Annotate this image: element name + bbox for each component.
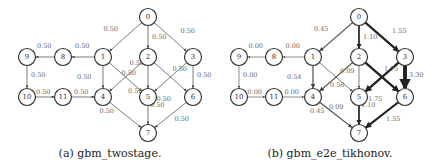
edge-label-0-3: 0.50: [181, 27, 195, 35]
node-label-2: 2: [146, 53, 150, 61]
node-0: 0: [351, 9, 368, 26]
edge-label-2-4: 0.50: [122, 69, 136, 77]
node-label-1: 1: [101, 53, 105, 61]
edge-label-3-6: 0.50: [197, 71, 211, 79]
edge-label-1-4: 0.54: [287, 73, 301, 81]
node-label-6: 6: [403, 93, 408, 101]
node-10: 10: [231, 89, 248, 106]
node-8: 8: [55, 49, 72, 66]
node-5: 5: [351, 89, 368, 106]
node-label-7: 7: [357, 129, 361, 137]
edge-label-0-1: 0.45: [314, 25, 328, 33]
node-label-5: 5: [357, 93, 361, 101]
edge-label-9-10: 0.00: [243, 71, 257, 79]
edge-label-1-4: 0.50: [77, 73, 91, 81]
caption-b: (b) gbm_e2e_tikhonov.: [267, 147, 392, 160]
node-9: 9: [231, 49, 248, 66]
edge-label-6-7: 1.55: [386, 115, 400, 123]
node-label-10: 10: [235, 93, 244, 101]
node-11: 11: [55, 89, 72, 106]
node-label-0: 0: [357, 13, 361, 21]
edge-label-0-2: 1.10: [363, 33, 377, 41]
node-5: 5: [140, 89, 157, 106]
node-3: 3: [185, 49, 202, 66]
edge-label-8-9: 0.00: [249, 42, 263, 50]
graph-gbm-twostage: 0.500.500.500.500.500.500.500.500.500.50…: [19, 9, 212, 161]
edge-label-1-5: 0.09: [340, 67, 354, 75]
node-label-8: 8: [61, 53, 65, 61]
edge-label-4-7: 0.45: [310, 107, 324, 115]
edge-label-1-8: 0.00: [286, 42, 300, 50]
node-label-11: 11: [59, 93, 68, 101]
node-label-3: 3: [403, 53, 407, 61]
node-label-7: 7: [146, 129, 150, 137]
node-1: 1: [305, 49, 322, 66]
edge-label-1-8: 0.50: [75, 42, 89, 50]
node-7: 7: [140, 125, 157, 142]
node-2: 2: [351, 49, 368, 66]
edge-label-11-4: 0.00: [285, 88, 299, 96]
node-label-9: 9: [25, 53, 29, 61]
node-label-9: 9: [237, 53, 241, 61]
node-label-11: 11: [270, 93, 279, 101]
edge-label-2-6: 1.75: [384, 65, 398, 73]
node-label-6: 6: [191, 93, 196, 101]
edge-label-6-7: 0.50: [175, 115, 189, 123]
node-1: 1: [95, 49, 112, 66]
node-label-3: 3: [191, 53, 195, 61]
node-11: 11: [266, 89, 283, 106]
edge-label-0-2: 0.50: [152, 33, 166, 41]
node-9: 9: [19, 49, 36, 66]
edge-label-2-5: 0.09: [329, 103, 343, 111]
node-10: 10: [19, 89, 36, 106]
node-8: 8: [266, 49, 283, 66]
edge-label-2-4: 0.56: [330, 81, 344, 89]
node-label-4: 4: [101, 93, 106, 101]
node-label-8: 8: [272, 53, 276, 61]
node-label-5: 5: [146, 93, 150, 101]
node-label-2: 2: [357, 53, 361, 61]
edge-label-9-10: 0.50: [31, 71, 45, 79]
edge-label-11-4: 0.50: [74, 88, 88, 96]
edge-label-8-9: 0.50: [37, 42, 51, 50]
figure-canvas: 0.500.500.500.500.500.500.500.500.500.50…: [0, 0, 441, 167]
node-label-4: 4: [311, 93, 316, 101]
node-3: 3: [397, 49, 414, 66]
node-6: 6: [185, 89, 202, 106]
node-6: 6: [397, 89, 414, 106]
node-4: 4: [95, 89, 112, 106]
caption-a: (a) gbm_twostage.: [59, 147, 162, 160]
node-label-10: 10: [23, 93, 32, 101]
edge-label-10-11: 0.00: [248, 88, 262, 96]
node-0: 0: [140, 9, 157, 26]
edge-4-7: [110, 102, 141, 127]
edge-label-2-6: 0.50: [173, 65, 187, 73]
edge-label-0-3: 1.55: [392, 27, 406, 35]
node-2: 2: [140, 49, 157, 66]
node-7: 7: [351, 125, 368, 142]
edge-label-3-6: 3.30: [409, 71, 423, 79]
edge-label-10-11: 0.50: [36, 88, 50, 96]
edge-label-0-1: 0.50: [104, 25, 118, 33]
node-label-1: 1: [311, 53, 315, 61]
node-label-0: 0: [146, 13, 150, 21]
graph-gbm-e2e-tikhonov: 0.451.101.550.000.000.000.000.000.540.09…: [231, 9, 424, 161]
edge-label-4-7: 0.50: [100, 107, 114, 115]
node-4: 4: [305, 89, 322, 106]
